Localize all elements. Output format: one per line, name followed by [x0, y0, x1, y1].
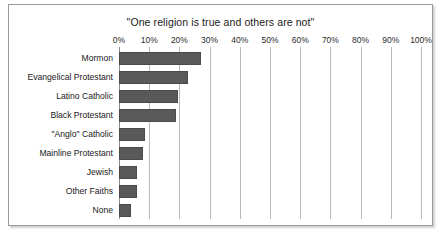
- category-label: Jewish: [9, 167, 113, 177]
- x-tick-label: 20%: [171, 35, 188, 45]
- category-label: Black Protestant: [9, 110, 113, 120]
- x-tick-label: 0%: [113, 35, 125, 45]
- category-label: Mormon: [9, 53, 113, 63]
- category-label: Evangelical Protestant: [9, 72, 113, 82]
- bar: [119, 185, 137, 198]
- x-tick-label: 80%: [352, 35, 369, 45]
- x-tick-label: 10%: [141, 35, 158, 45]
- bar: [119, 90, 178, 103]
- category-label: Latino Catholic: [9, 91, 113, 101]
- bar: [119, 147, 143, 160]
- gridline-80%: [361, 47, 362, 219]
- bar: [119, 71, 188, 84]
- gridline-60%: [300, 47, 301, 219]
- gridline-40%: [240, 47, 241, 219]
- gridline-70%: [330, 47, 331, 219]
- x-tick-label: 90%: [382, 35, 399, 45]
- bar: [119, 128, 145, 141]
- x-tick-label: 50%: [261, 35, 278, 45]
- category-label: Other Faiths: [9, 186, 113, 196]
- y-axis-category-labels: MormonEvangelical ProtestantLatino Catho…: [9, 47, 113, 219]
- gridline-100%: [421, 47, 422, 219]
- gridline-90%: [391, 47, 392, 219]
- gridline-30%: [210, 47, 211, 219]
- plot-area: [119, 47, 421, 219]
- category-label: "Anglo" Catholic: [9, 129, 113, 139]
- bar: [119, 166, 137, 179]
- x-tick-label: 100%: [410, 35, 432, 45]
- category-label: Mainline Protestant: [9, 148, 113, 158]
- chart-frame: "One religion is true and others are not…: [8, 4, 433, 226]
- x-tick-label: 40%: [231, 35, 248, 45]
- x-axis-tick-labels: 0%10%20%30%40%50%60%70%80%90%100%: [119, 35, 421, 47]
- x-tick-label: 70%: [322, 35, 339, 45]
- x-tick-label: 60%: [292, 35, 309, 45]
- gridline-50%: [270, 47, 271, 219]
- x-tick-label: 30%: [201, 35, 218, 45]
- bar: [119, 52, 201, 65]
- bar: [119, 109, 176, 122]
- category-label: None: [9, 205, 113, 215]
- bar: [119, 204, 131, 217]
- chart-title: "One religion is true and others are not…: [9, 16, 432, 28]
